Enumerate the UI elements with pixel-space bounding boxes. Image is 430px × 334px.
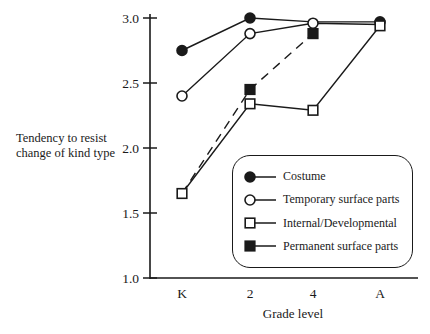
legend-label: Permanent surface parts — [283, 239, 398, 254]
y-tick-label: 2.5 — [122, 76, 139, 91]
filled-square-icon — [242, 239, 278, 253]
legend-item-temporary-surface-parts: Temporary surface parts — [242, 192, 406, 207]
legend-label: Temporary surface parts — [283, 192, 399, 207]
x-axis-title: Grade level — [243, 306, 343, 322]
filled-circle-icon — [242, 170, 278, 184]
x-tick-label: A — [375, 286, 385, 301]
legend-label: Costume — [283, 169, 326, 184]
data-point-internal-developmental-2 — [245, 99, 255, 109]
data-point-internal-developmental-K — [177, 189, 187, 199]
data-point-costume-K — [177, 46, 187, 56]
legend-item-costume: Costume — [242, 169, 406, 184]
x-tick-label: K — [177, 286, 187, 301]
open-square-icon — [242, 216, 278, 230]
line-chart-figure: 3.02.52.01.51.0K24A Tendency to resist c… — [0, 0, 430, 334]
open-circle-icon — [242, 193, 278, 207]
series-line-temporary-surface-parts — [182, 23, 380, 96]
chart-legend: Costume Temporary surface parts Internal… — [232, 155, 413, 268]
series-line-costume — [182, 18, 380, 51]
data-point-internal-developmental-A — [375, 21, 385, 31]
data-point-temporary-surface-parts-K — [177, 91, 187, 101]
data-point-permanent-surface-parts-4 — [308, 29, 318, 39]
data-point-internal-developmental-4 — [308, 106, 318, 116]
legend-item-permanent-surface-parts: Permanent surface parts — [242, 239, 406, 254]
x-tick-label: 4 — [310, 286, 317, 301]
legend-item-internal-developmental: Internal/Developmental — [242, 216, 406, 231]
legend-label: Internal/Developmental — [283, 216, 397, 231]
y-axis-title: Tendency to resist change of kind type — [16, 131, 136, 161]
x-tick-label: 2 — [247, 286, 254, 301]
data-point-temporary-surface-parts-4 — [308, 18, 318, 28]
y-tick-label: 1.0 — [122, 271, 139, 286]
data-point-costume-2 — [245, 13, 255, 23]
y-tick-label: 3.0 — [122, 11, 139, 26]
data-point-temporary-surface-parts-2 — [245, 29, 255, 39]
data-point-permanent-surface-parts-2 — [245, 85, 255, 95]
y-tick-label: 1.5 — [122, 206, 139, 221]
